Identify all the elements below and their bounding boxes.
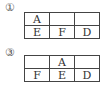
grid-cell: A (50, 56, 75, 69)
grid-cell: F (50, 26, 75, 39)
figure-label-1: ① (5, 2, 15, 13)
grid-cell (50, 13, 75, 26)
grid-cell: F (25, 69, 50, 82)
grid-cell: E (50, 69, 75, 82)
grid-cell (25, 56, 50, 69)
grid-row: A (25, 13, 100, 26)
grid-figure-3: A F E D (24, 55, 100, 82)
figure-label-3: ③ (5, 47, 15, 58)
grid-cell (75, 13, 100, 26)
grid-row: F E D (25, 69, 100, 82)
grid-row: A (25, 56, 100, 69)
grid-cell: D (75, 26, 100, 39)
grid-figure-1: A E F D (24, 12, 100, 39)
grid-cell: A (25, 13, 50, 26)
grid-cell (75, 56, 100, 69)
grid-cell: E (25, 26, 50, 39)
grid-row: E F D (25, 26, 100, 39)
grid-cell: D (75, 69, 100, 82)
